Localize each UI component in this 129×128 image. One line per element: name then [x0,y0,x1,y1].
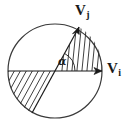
vector-label-vi: Vi [107,60,121,78]
angle-label-alpha: α [58,56,66,67]
vector-label-vj: Vj [75,2,90,20]
vector-label-vi-subscript: i [118,67,121,78]
vector-label-vj-base: V [75,2,86,18]
vector-label-vj-subscript: j [86,9,90,20]
upper-right-sector-hatch [56,10,113,128]
vector-angle-diagram: Vj Vi α [0,0,129,128]
vector-label-vi-base: V [107,60,118,76]
